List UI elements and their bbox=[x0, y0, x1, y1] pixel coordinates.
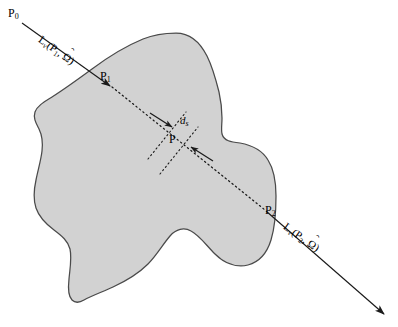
label-p0-letter: P bbox=[8, 6, 15, 20]
label-p0: P0 bbox=[8, 7, 19, 21]
label-sample-point-p: P bbox=[169, 133, 176, 145]
participating-medium-blob bbox=[34, 33, 276, 302]
label-p2-subscript: 2 bbox=[272, 209, 276, 218]
radiative-transfer-diagram: P0 P1 P2 P ds Lv(P1, ˆΩ) Lv(P2, ˆΩ) bbox=[0, 0, 398, 327]
label-p0-subscript: 0 bbox=[15, 12, 19, 21]
label-p1: P1 bbox=[100, 70, 111, 84]
label-p1-letter: P bbox=[100, 69, 107, 83]
label-p2: P2 bbox=[265, 204, 276, 218]
label-p-letter: P bbox=[169, 132, 176, 146]
label-p1-subscript: 1 bbox=[107, 75, 111, 84]
label-ds: ds bbox=[180, 115, 189, 128]
label-p2-letter: P bbox=[265, 203, 272, 217]
label-ds-subscript: s bbox=[186, 119, 189, 128]
